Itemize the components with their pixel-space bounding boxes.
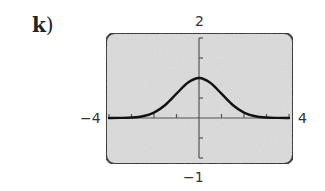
graphing-calculator-screen [0,0,325,191]
